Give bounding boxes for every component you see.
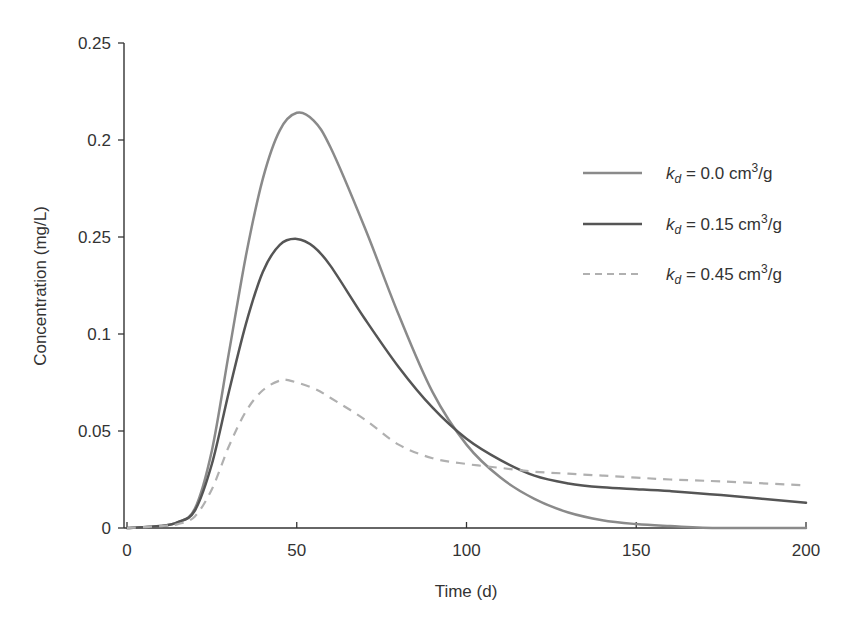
x-tick-label: 150: [622, 541, 650, 560]
y-tick-label: 0.05: [78, 422, 111, 441]
x-tick-label: 50: [287, 541, 306, 560]
series-line-2: [127, 379, 806, 528]
legend-label: kd = 0.0 cm3/g: [666, 161, 772, 186]
y-axis-title: Concentration (mg/L): [31, 206, 50, 366]
y-tick-label: 0.25: [78, 34, 111, 53]
legend-label: kd = 0.15 cm3/g: [666, 212, 782, 237]
y-tick-label: 0.2: [87, 131, 111, 150]
y-tick-label: 0: [102, 519, 111, 538]
y-tick-label: 0.1: [87, 325, 111, 344]
x-axis-title: Time (d): [435, 582, 498, 601]
x-tick-label: 100: [452, 541, 480, 560]
legend-label: kd = 0.45 cm3/g: [666, 262, 782, 287]
line-chart: 00.050.10.250.20.25 050100150200 Time (d…: [0, 0, 862, 628]
axes: [124, 43, 806, 528]
y-ticks: 00.050.10.250.20.25: [78, 34, 124, 538]
y-tick-label: 0.25: [78, 228, 111, 247]
x-tick-label: 200: [792, 541, 820, 560]
x-tick-label: 0: [122, 541, 131, 560]
legend: kd = 0.0 cm3/gkd = 0.15 cm3/gkd = 0.45 c…: [583, 161, 782, 287]
